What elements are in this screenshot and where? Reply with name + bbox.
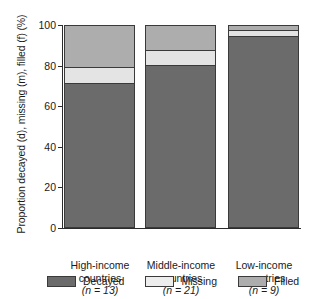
bar-segment-filled <box>146 26 215 50</box>
legend-label-missing: Missing <box>181 276 217 287</box>
bar-middle-income[interactable] <box>145 25 216 228</box>
y-tick-label-80: 80 <box>16 61 56 72</box>
y-tick-mark-0 <box>58 228 62 229</box>
legend-label-decayed: Decayed <box>83 276 124 287</box>
legend-label-filled: Filled <box>274 276 299 287</box>
bar-segment-decayed <box>229 36 298 228</box>
legend-item-missing[interactable]: Missing <box>145 276 217 287</box>
bar-segment-filled <box>65 26 134 67</box>
y-axis-line <box>62 25 63 229</box>
category-line-1: Low-income <box>209 259 319 272</box>
bar-low-income[interactable] <box>228 25 299 228</box>
y-tick-label-0: 0 <box>16 223 56 234</box>
stacked-bar-chart: Proportion decayed (d), missing (m), fil… <box>0 0 323 299</box>
legend-swatch-missing-icon <box>145 276 174 287</box>
y-tick-mark-20 <box>58 187 62 188</box>
y-tick-label-60: 60 <box>16 101 56 112</box>
bar-high-income[interactable] <box>64 25 135 228</box>
chart-legend: Decayed Missing Filled <box>47 276 320 287</box>
bar-segment-decayed <box>65 83 134 228</box>
legend-item-decayed[interactable]: Decayed <box>47 276 124 287</box>
y-tick-label-20: 20 <box>16 182 56 193</box>
x-axis-line <box>62 228 301 229</box>
legend-item-filled[interactable]: Filled <box>238 276 299 287</box>
y-axis-title: Proportion decayed (d), missing (m), fil… <box>15 14 27 234</box>
y-tick-mark-60 <box>58 106 62 107</box>
y-tick-mark-80 <box>58 66 62 67</box>
y-tick-label-40: 40 <box>16 142 56 153</box>
legend-swatch-filled-icon <box>238 276 267 287</box>
bar-segment-missing <box>65 67 134 83</box>
y-tick-label-100: 100 <box>16 20 56 31</box>
y-tick-mark-100 <box>58 25 62 26</box>
plot-area: 100 80 60 40 20 0 High-income <box>62 25 301 228</box>
y-tick-mark-40 <box>58 147 62 148</box>
bar-segment-missing <box>146 50 215 64</box>
legend-swatch-decayed-icon <box>47 276 76 287</box>
bar-segment-decayed <box>146 65 215 228</box>
